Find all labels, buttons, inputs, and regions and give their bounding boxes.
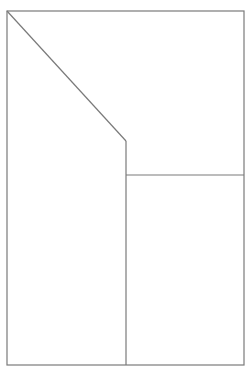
diagonal-line	[7, 11, 126, 141]
line-diagram	[0, 0, 248, 370]
